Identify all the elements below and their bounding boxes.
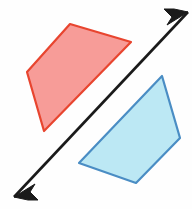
figure-svg: [0, 0, 192, 209]
geometry-figure-canvas: [0, 0, 192, 209]
